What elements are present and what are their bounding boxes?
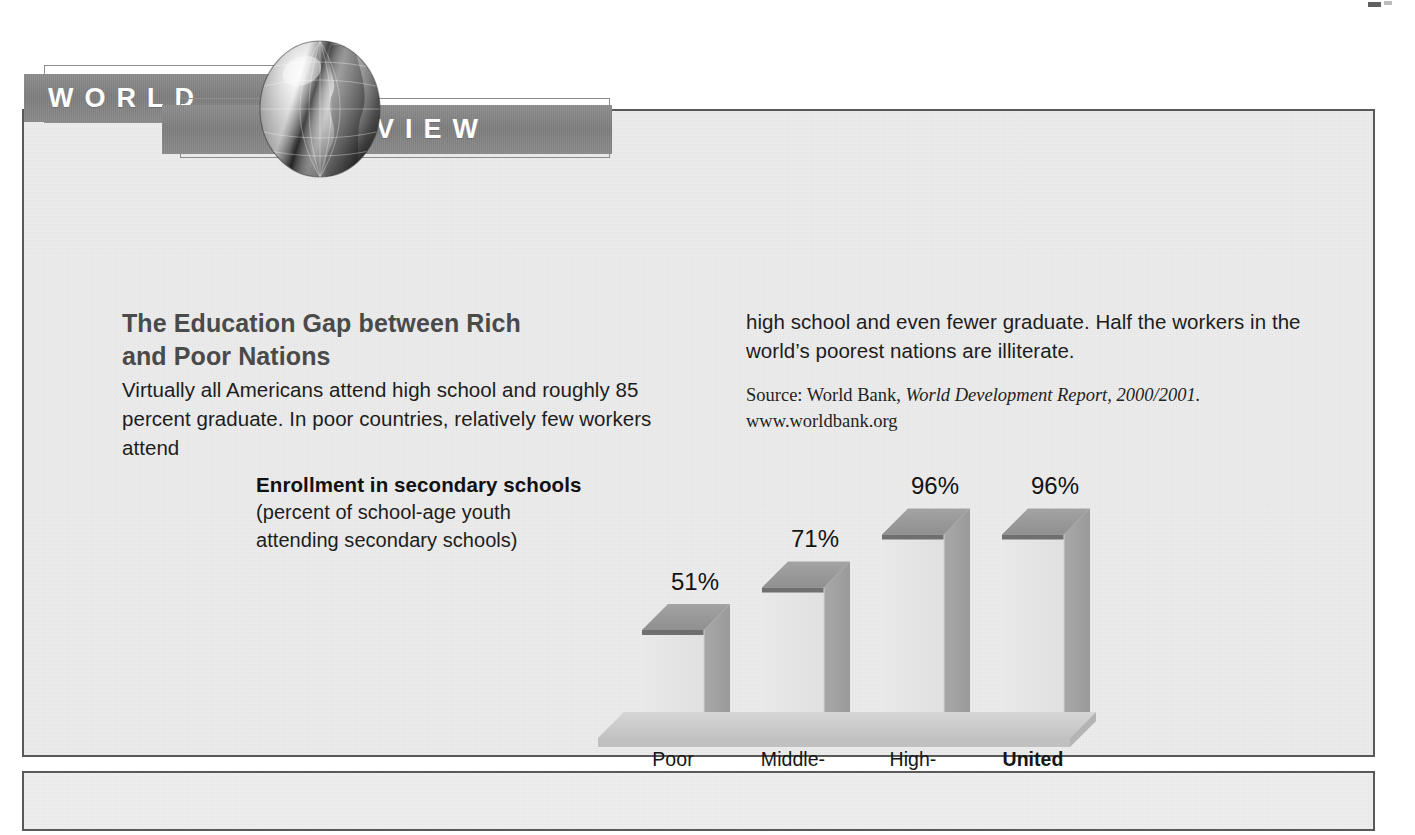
world-view-feature-box: The Education Gap between Rich and Poor … <box>22 109 1375 757</box>
bar-4 <box>1002 508 1090 738</box>
category-label-3-line-1: High- <box>843 747 983 773</box>
chart-floor <box>598 712 1096 747</box>
banner-word-view: VIEW <box>376 116 489 143</box>
enrollment-bar-chart: Enrollment in secondary schools (percent… <box>24 111 1377 759</box>
bar-value-label-1: 51% <box>671 568 719 595</box>
bar-value-label-4: 96% <box>1031 472 1079 499</box>
next-feature-box <box>22 771 1375 831</box>
page-edge-artifact-secondary <box>1384 1 1392 5</box>
bar-value-label-2: 71% <box>791 525 839 552</box>
globe-icon <box>258 39 382 179</box>
category-label-2-line-1: Middle- <box>723 747 863 773</box>
bar-3 <box>882 508 970 738</box>
bar-value-label-3: 96% <box>911 472 959 499</box>
page-edge-artifact <box>1368 2 1381 7</box>
category-label-4-line-1: United <box>963 747 1103 773</box>
category-label-1-line-1: Poor <box>603 747 743 773</box>
bar-2 <box>762 561 850 738</box>
world-view-banner: WORLD VIEW <box>2 2 642 182</box>
bars-layer <box>642 508 1090 738</box>
